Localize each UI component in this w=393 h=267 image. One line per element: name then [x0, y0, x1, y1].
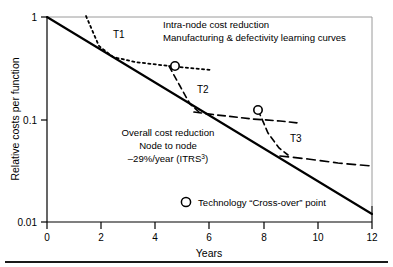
annotation-overall-line2: Node to node	[139, 140, 197, 151]
y-axis-title: Relative costs per function	[9, 57, 21, 180]
node-label-t1: T1	[113, 29, 125, 40]
y-tick-label-1: 1	[31, 12, 37, 23]
node-label-t3: T3	[290, 133, 302, 144]
circle-outline-icon	[181, 197, 190, 206]
x-tick-label-8: 8	[261, 232, 267, 243]
x-tick-label-10: 10	[312, 232, 324, 243]
x-tick-label-12: 12	[366, 232, 378, 243]
x-tick-label-2: 2	[98, 232, 104, 243]
x-tick-label-0: 0	[44, 232, 50, 243]
y-ticks: 1 0.1 0.01	[18, 12, 47, 228]
y-tick-label-0p1: 0.1	[23, 115, 37, 126]
cost-reduction-chart: 1 0.1 0.01 0 2 4 6 8 10 12 Years Relativ…	[0, 0, 393, 267]
x-axis-title: Years	[196, 247, 222, 259]
bottom-rule	[5, 261, 388, 263]
legend: Technology “Cross-over” point	[181, 197, 326, 208]
annotation-overall-line3: –29%/year (ITRS3)	[128, 153, 208, 165]
crossover-point-t1-t2	[171, 62, 179, 70]
figure-container: 1 0.1 0.01 0 2 4 6 8 10 12 Years Relativ…	[0, 0, 393, 267]
annotation-intra-node-line1: Intra-node cost reduction	[163, 19, 269, 30]
crossover-point-t2-t3	[254, 106, 262, 114]
y-tick-label-0p01: 0.01	[18, 217, 38, 228]
annotation-overall-line1: Overall cost reduction	[122, 127, 215, 138]
x-ticks: 0 2 4 6 8 10 12	[44, 222, 378, 243]
annotation-overall-line3-suffix: )	[205, 153, 208, 164]
annotation-overall-line3-prefix: –29%/year (ITRS	[128, 153, 202, 164]
node-label-t2: T2	[197, 84, 209, 95]
legend-label: Technology “Cross-over” point	[198, 197, 326, 208]
x-tick-label-6: 6	[206, 232, 212, 243]
x-tick-label-4: 4	[152, 232, 158, 243]
annotation-intra-node-line2: Manufacturing & defectivity learning cur…	[163, 32, 346, 43]
